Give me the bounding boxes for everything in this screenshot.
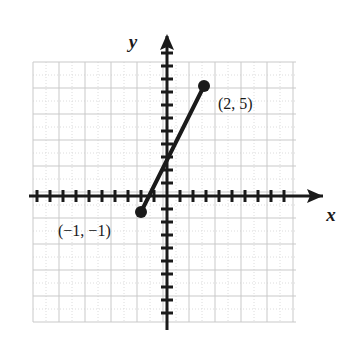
coordinate-plane: y x (2, 5) (−1, −1) [0, 0, 352, 338]
point-label-upper: (2, 5) [218, 95, 253, 113]
point-marker-lower-endpoint [135, 206, 147, 218]
figure-canvas: y x (2, 5) (−1, −1) [0, 0, 352, 338]
point-label-lower: (−1, −1) [58, 222, 111, 240]
point-marker-upper-endpoint [198, 80, 210, 92]
y-axis-label: y [127, 31, 138, 52]
x-axis-label: x [325, 204, 336, 225]
